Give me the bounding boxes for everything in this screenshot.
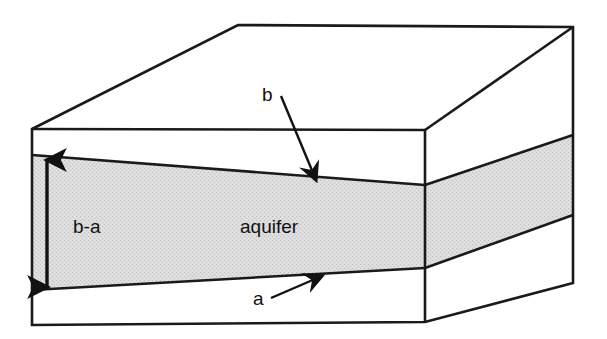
label-aquifer: aquifer xyxy=(240,216,299,237)
edge-top-front xyxy=(32,129,425,130)
label-thickness: b-a xyxy=(73,216,101,237)
figure-root: b-a aquifer b a xyxy=(0,0,607,339)
label-upper-surface-b: b xyxy=(262,84,273,105)
aquifer-block-diagram: b-a aquifer b a xyxy=(0,0,607,339)
label-lower-surface-a: a xyxy=(253,288,264,309)
